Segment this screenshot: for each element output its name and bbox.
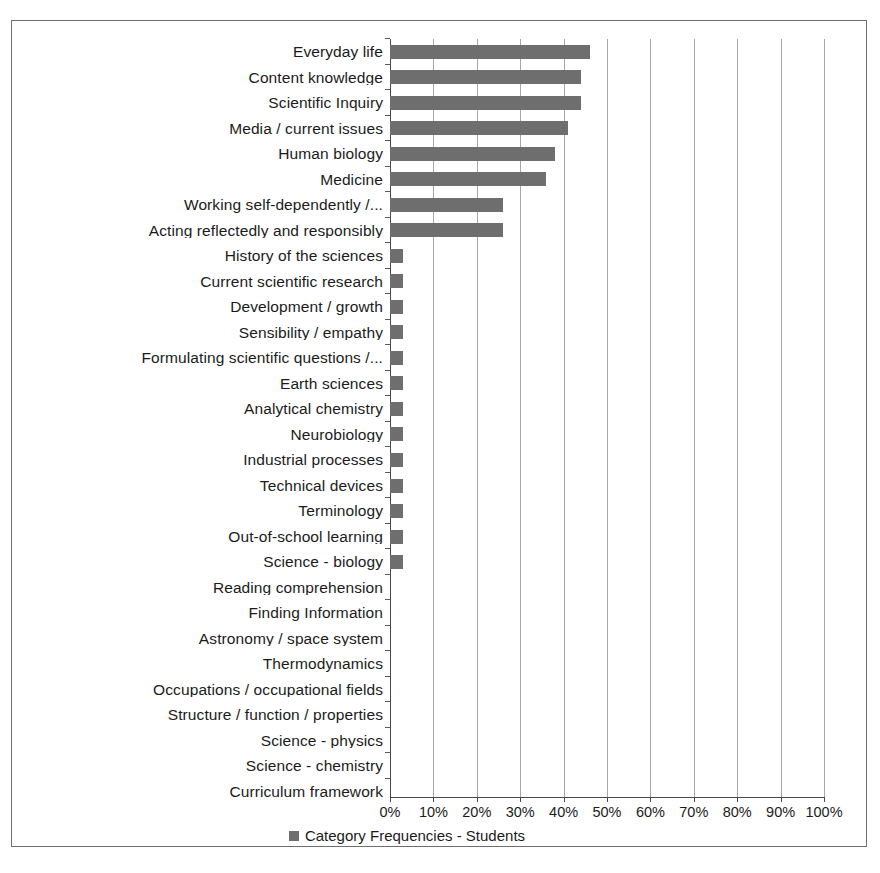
category-label: Scientific Inquiry (12, 95, 390, 111)
bar-cell (390, 371, 824, 397)
bar[interactable] (390, 45, 590, 59)
category-axis-tick (385, 574, 390, 575)
bar-row: Out-of-school learning (12, 524, 866, 550)
bar-row: Science - physics (12, 728, 866, 754)
category-label: Technical devices (12, 478, 390, 494)
bar[interactable] (390, 402, 403, 416)
bar-row: Technical devices (12, 473, 866, 499)
bar-cell (390, 498, 824, 524)
bar-row: Reading comprehension (12, 575, 866, 601)
x-axis-tick-labels: 0%10%20%30%40%50%60%70%80%90%100% (390, 803, 824, 823)
x-tick-50 (607, 797, 608, 802)
category-axis-tick (385, 599, 390, 600)
bar[interactable] (390, 555, 403, 569)
bar-row: Working self-dependently /... (12, 192, 866, 218)
category-label: Human biology (12, 146, 390, 162)
category-axis-tick (385, 650, 390, 651)
bar-row: History of the sciences (12, 243, 866, 269)
x-tick-100 (824, 797, 825, 802)
category-label: Current scientific research (12, 274, 390, 290)
bar-row: Astronomy / space system (12, 626, 866, 652)
bar-cell (390, 141, 824, 167)
bar[interactable] (390, 172, 546, 186)
bar[interactable] (390, 325, 403, 339)
bar[interactable] (390, 70, 581, 84)
x-tick-label: 50% (592, 803, 621, 821)
bar-cell (390, 473, 824, 499)
category-label: Occupations / occupational fields (12, 682, 390, 698)
category-label: Development / growth (12, 299, 390, 315)
bar[interactable] (390, 121, 568, 135)
category-label: Reading comprehension (12, 580, 390, 596)
bar[interactable] (390, 249, 403, 263)
bar-row: Content knowledge (12, 65, 866, 91)
category-axis-tick (385, 523, 390, 524)
category-label: Formulating scientific questions /... (12, 350, 390, 366)
x-tick-10 (433, 797, 434, 802)
category-label: Industrial processes (12, 452, 390, 468)
legend-swatch-icon (289, 831, 299, 841)
x-tick-20 (477, 797, 478, 802)
category-axis-tick (385, 676, 390, 677)
bar-row: Formulating scientific questions /... (12, 345, 866, 371)
x-tick-80 (737, 797, 738, 802)
category-label: Analytical chemistry (12, 401, 390, 417)
bar-row: Scientific Inquiry (12, 90, 866, 116)
bar[interactable] (390, 453, 403, 467)
legend-entry: Category Frequencies - Students (289, 827, 525, 844)
bar-cell (390, 243, 824, 269)
bar[interactable] (390, 300, 403, 314)
x-tick-0 (390, 797, 391, 802)
x-tick-label: 0% (380, 803, 401, 821)
bar-cell (390, 269, 824, 295)
bar-row: Acting reflectedly and responsibly (12, 218, 866, 244)
bar[interactable] (390, 274, 403, 288)
x-tick-label: 80% (723, 803, 752, 821)
bar-row: Thermodynamics (12, 651, 866, 677)
category-label: Media / current issues (12, 121, 390, 137)
category-label: Sensibility / empathy (12, 325, 390, 341)
bar[interactable] (390, 147, 555, 161)
category-label: Everyday life (12, 44, 390, 60)
bar-cell (390, 728, 824, 754)
bar-row: Terminology (12, 498, 866, 524)
category-label: Acting reflectedly and responsibly (12, 223, 390, 239)
x-tick-label: 20% (462, 803, 491, 821)
category-axis-tick (385, 140, 390, 141)
bar-row: Earth sciences (12, 371, 866, 397)
chart-legend: Category Frequencies - Students (12, 827, 866, 844)
category-axis-tick (385, 548, 390, 549)
bar-cell (390, 294, 824, 320)
bar-cell (390, 702, 824, 728)
bar-row: Science - chemistry (12, 753, 866, 779)
bar-cell (390, 192, 824, 218)
bar[interactable] (390, 351, 403, 365)
bar[interactable] (390, 376, 403, 390)
category-axis-tick (385, 38, 390, 39)
bar-cell (390, 677, 824, 703)
bar[interactable] (390, 530, 403, 544)
category-axis-tick (385, 472, 390, 473)
x-tick-40 (564, 797, 565, 802)
bar-row: Analytical chemistry (12, 396, 866, 422)
category-label: Working self-dependently /... (12, 197, 390, 213)
x-tick-70 (694, 797, 695, 802)
category-axis-tick (385, 752, 390, 753)
bar[interactable] (390, 96, 581, 110)
category-label: Neurobiology (12, 427, 390, 443)
bar-cell (390, 575, 824, 601)
bar[interactable] (390, 479, 403, 493)
bar-cell (390, 626, 824, 652)
category-axis-tick (385, 446, 390, 447)
category-axis-tick (385, 344, 390, 345)
bar-cell (390, 422, 824, 448)
category-axis-tick (385, 727, 390, 728)
category-axis-tick (385, 64, 390, 65)
category-axis-tick (385, 191, 390, 192)
bar[interactable] (390, 504, 403, 518)
category-axis-tick (385, 166, 390, 167)
bar[interactable] (390, 198, 503, 212)
bar[interactable] (390, 427, 403, 441)
bar[interactable] (390, 223, 503, 237)
x-tick-label: 60% (636, 803, 665, 821)
